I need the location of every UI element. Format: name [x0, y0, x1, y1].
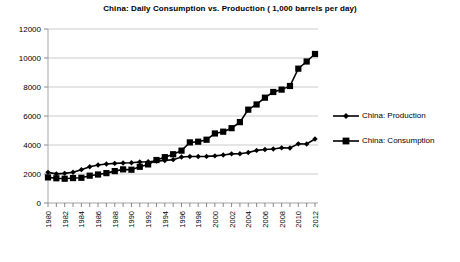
data-point-marker — [104, 161, 109, 166]
data-point-marker — [70, 175, 76, 181]
x-axis-tick-label: 1998 — [194, 211, 203, 228]
data-point-marker — [229, 151, 234, 156]
data-point-marker — [204, 154, 209, 159]
data-point-marker — [195, 139, 201, 145]
data-point-marker — [170, 151, 176, 157]
data-point-marker — [220, 129, 226, 135]
data-point-marker — [112, 161, 117, 166]
data-point-marker — [270, 89, 276, 95]
data-point-marker — [254, 148, 259, 153]
data-point-marker — [187, 139, 193, 145]
data-point-marker — [312, 51, 318, 57]
data-point-marker — [279, 145, 284, 150]
y-axis-tick-label: 4000 — [23, 141, 41, 150]
data-point-marker — [221, 152, 226, 157]
series-production — [45, 136, 317, 176]
data-point-marker — [87, 173, 93, 179]
data-point-marker — [262, 95, 268, 101]
x-axis-tick-label: 1982 — [61, 211, 70, 228]
data-point-marker — [153, 157, 159, 163]
data-point-marker — [212, 153, 217, 158]
x-axis-tick-label: 2012 — [311, 211, 320, 228]
x-axis-tick-label: 1986 — [94, 211, 103, 228]
legend-label: China: Production — [362, 111, 426, 120]
data-point-marker — [287, 145, 292, 150]
chart-legend: China: ProductionChina: Consumption — [333, 111, 434, 145]
data-point-marker — [237, 151, 242, 156]
x-axis-tick-label: 1990 — [127, 211, 136, 228]
x-axis-tick-label: 2000 — [211, 211, 220, 228]
data-point-marker — [245, 107, 251, 113]
data-point-marker — [212, 130, 218, 136]
data-point-marker — [120, 160, 125, 165]
chart-container: China: Daily Consumption vs. Production … — [0, 0, 460, 262]
x-axis-tick-label: 2006 — [261, 211, 270, 228]
data-point-marker — [128, 167, 134, 173]
data-point-marker — [87, 164, 92, 169]
data-point-marker — [246, 150, 251, 155]
x-axis-tick-label: 1994 — [161, 211, 170, 228]
y-axis: 020004000600080001000012000 — [19, 25, 48, 208]
x-axis-tick-label: 2010 — [294, 211, 303, 228]
y-axis-tick-label: 2000 — [23, 170, 41, 179]
data-point-marker — [129, 160, 134, 165]
data-point-marker — [145, 161, 151, 167]
x-axis-tick-label: 1980 — [44, 211, 53, 228]
data-point-marker — [187, 154, 192, 159]
data-point-marker — [120, 166, 126, 172]
data-point-marker — [179, 154, 184, 159]
data-point-marker — [178, 148, 184, 154]
x-axis-tick-label: 1996 — [178, 211, 187, 228]
y-axis-tick-label: 8000 — [23, 83, 41, 92]
y-axis-tick-label: 12000 — [19, 25, 42, 34]
data-point-marker — [53, 175, 59, 181]
legend-label: China: Consumption — [362, 136, 434, 145]
x-axis-tick-label: 1988 — [111, 211, 120, 228]
data-point-marker — [279, 87, 285, 93]
data-point-marker — [203, 137, 209, 143]
data-point-marker — [295, 66, 301, 72]
data-point-marker — [237, 119, 243, 125]
x-axis-tick-label: 2004 — [244, 211, 253, 228]
data-point-marker — [304, 58, 310, 64]
data-point-marker — [170, 157, 175, 162]
data-point-marker — [195, 154, 200, 159]
data-point-marker — [79, 167, 84, 172]
data-point-marker — [162, 154, 168, 160]
data-point-marker — [137, 164, 143, 170]
x-axis-tick-label: 2002 — [228, 211, 237, 228]
data-point-marker — [62, 176, 68, 182]
y-axis-tick-label: 6000 — [23, 112, 41, 121]
x-axis-tick-label: 2008 — [278, 211, 287, 228]
legend-marker — [343, 113, 349, 119]
data-point-marker — [103, 170, 109, 176]
data-point-marker — [45, 174, 51, 180]
x-axis-tick-label: 1984 — [77, 211, 86, 228]
data-point-marker — [62, 171, 67, 176]
data-point-marker — [271, 146, 276, 151]
data-point-marker — [228, 125, 234, 131]
data-point-marker — [112, 168, 118, 174]
y-axis-tick-label: 10000 — [19, 54, 42, 63]
y-axis-tick-label: 0 — [37, 199, 42, 208]
data-point-marker — [296, 141, 301, 146]
legend-item-production[interactable]: China: Production — [333, 111, 426, 120]
legend-marker — [343, 138, 350, 145]
data-point-marker — [262, 147, 267, 152]
x-axis-tick-label: 1992 — [144, 211, 153, 228]
legend-item-consumption[interactable]: China: Consumption — [333, 136, 434, 145]
data-point-marker — [78, 175, 84, 181]
data-point-marker — [253, 101, 259, 107]
data-point-marker — [287, 83, 293, 89]
data-point-marker — [95, 162, 100, 167]
x-axis: 1980198219841986198819901992199419961998… — [44, 203, 320, 228]
data-point-marker — [95, 171, 101, 177]
chart-plot-area: 020004000600080001000012000 198019821984… — [0, 0, 460, 262]
